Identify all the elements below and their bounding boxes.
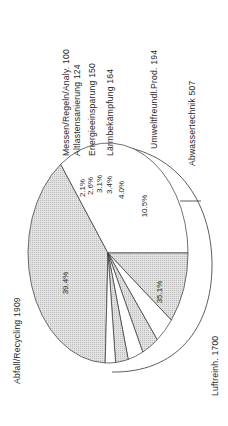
label-abwasser: Abwassertechnik 507 [187,80,197,166]
pct-abwasser: 10.5% [140,195,149,218]
pie-chart: 39.4% 35.1% 10.5% 4.0% 3.4% 3.1% 2.6% 2.… [0,0,228,426]
label-messen: Messen/Regeln/Analy. 100 [61,49,71,156]
label-abfall: Abfall/Recycling 1909 [12,297,22,384]
label-altlast: Altlastensanierung 124 [72,64,82,156]
label-laerm: Lärmbekämpfung 164 [105,69,115,156]
pct-umwelt: 4.0% [117,181,126,199]
label-umwelt: Umweltfreundl.Prod. 194 [149,50,159,149]
pct-luft: 35.1% [155,281,164,304]
label-energie: Energieeinsparung 150 [87,63,97,156]
label-luft: Luftreinh. 1700 [210,336,220,396]
pct-energie: 3.1% [95,175,104,193]
pct-laerm: 3.4% [105,176,114,194]
pct-altlast: 2.6% [86,177,95,195]
pct-messen: 2.1% [78,179,87,197]
pct-abfall: 39.4% [61,272,70,295]
